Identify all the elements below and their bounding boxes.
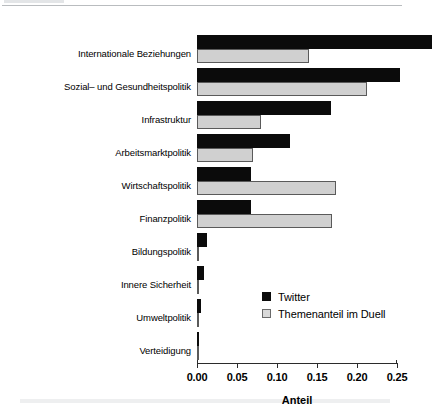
bar-twitter — [197, 68, 400, 82]
bar-twitter — [197, 266, 204, 280]
category-label: Umweltpolitik — [0, 312, 191, 323]
category-label: Innere Sicherheit — [0, 279, 191, 290]
category-label: Arbeitsmarktpolitik — [0, 147, 191, 158]
bar-twitter — [197, 200, 251, 214]
bar-themenanteil-im-duell — [197, 115, 261, 129]
legend-label-twitter: Twitter — [278, 291, 310, 303]
bar-themenanteil-im-duell — [197, 148, 253, 162]
x-axis-tick — [197, 363, 198, 368]
legend-label-themenanteil-im-duell: Themenanteil im Duell — [278, 308, 385, 320]
bar-themenanteil-im-duell — [197, 49, 309, 63]
x-axis-tick-label: 0.25 — [367, 371, 427, 383]
black-square-icon — [262, 292, 271, 301]
bar-twitter — [197, 167, 251, 181]
category-label: Verteidigung — [0, 345, 191, 356]
scan-artifact-top-left — [4, 0, 64, 3]
category-label: Infrastruktur — [0, 114, 191, 125]
bar-themenanteil-im-duell — [197, 214, 332, 228]
bar-themenanteil-im-duell — [197, 280, 199, 294]
bar-twitter — [197, 101, 331, 115]
x-axis-tick — [237, 363, 238, 368]
category-label: Bildungspolitik — [0, 246, 191, 257]
x-axis-tick — [357, 363, 358, 368]
x-axis-tick — [277, 363, 278, 368]
bar-themenanteil-im-duell — [197, 247, 199, 261]
x-axis-tick — [397, 363, 398, 368]
x-axis-title: Anteil — [197, 394, 397, 406]
category-label: Sozial– und Gesundheitspolitik — [0, 81, 191, 92]
chart-legend: Twitter Themenanteil im Duell — [262, 288, 432, 322]
bar-themenanteil-im-duell — [197, 181, 336, 195]
x-axis-line — [197, 363, 397, 364]
category-label: Finanzpolitik — [0, 213, 191, 224]
plot-area: Internationale BeziehungenSozial– und Ge… — [40, 16, 436, 407]
grouped-bar-chart: Internationale BeziehungenSozial– und Ge… — [40, 16, 436, 407]
legend-entry-twitter: Twitter — [262, 288, 432, 305]
legend-entry-themenanteil-im-duell: Themenanteil im Duell — [262, 305, 432, 322]
bar-twitter — [197, 35, 432, 49]
bar-themenanteil-im-duell — [197, 313, 199, 327]
bar-twitter — [197, 299, 201, 313]
gray-square-icon — [262, 309, 271, 318]
bar-twitter — [197, 134, 290, 148]
bar-themenanteil-im-duell — [197, 82, 367, 96]
bar-themenanteil-im-duell — [197, 346, 199, 360]
x-axis-tick — [317, 363, 318, 368]
bar-twitter — [197, 233, 207, 247]
bar-twitter — [197, 332, 199, 346]
category-label: Internationale Beziehungen — [0, 48, 191, 59]
scan-rule-top — [2, 5, 402, 6]
category-label: Wirtschaftspolitik — [0, 180, 191, 191]
